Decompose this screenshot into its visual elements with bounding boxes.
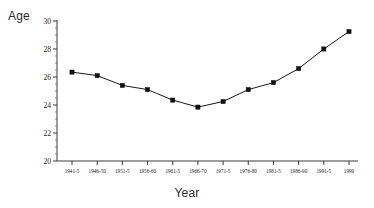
chart-plot-area: 202224262830 1941-51946-501951-51956-601… [0, 0, 374, 208]
x-axis-tick-label: 1991-5 [316, 168, 331, 174]
x-axis-tick-label: 1976-80 [240, 168, 258, 174]
x-axis-tick-label: 1971-5 [216, 168, 231, 174]
data-point-marker [221, 99, 225, 103]
x-axis: 1941-51946-501951-51956-601961-51966-701… [57, 161, 358, 174]
y-axis-tick-label: 24 [44, 101, 52, 110]
y-axis-tick-label: 26 [44, 73, 52, 82]
x-axis-tick-label: 1961-5 [165, 168, 180, 174]
series-line-age [72, 32, 349, 108]
x-axis-tick-label: 1986-90 [290, 168, 308, 174]
chart-figure: Age 202224262830 1941-51946-501951-51956… [0, 0, 374, 208]
data-point-marker [171, 98, 175, 102]
data-point-marker [322, 47, 326, 51]
data-point-marker [246, 88, 250, 92]
x-axis-tick-label: 1999 [344, 168, 355, 174]
y-axis-tick-label: 22 [44, 129, 52, 138]
x-axis-title: Year [0, 186, 374, 200]
data-point-marker [95, 74, 99, 78]
y-axis-tick-label: 20 [44, 157, 52, 166]
x-axis-tick-label: 1951-5 [115, 168, 130, 174]
data-point-marker [347, 29, 351, 33]
x-axis-tick-label: 1946-50 [89, 168, 107, 174]
y-axis: 202224262830 [44, 17, 58, 166]
data-point-marker [297, 67, 301, 71]
y-axis-tick-label: 30 [44, 17, 52, 26]
data-point-marker [196, 105, 200, 109]
x-axis-tick-label: 1941-5 [65, 168, 80, 174]
data-series-age [70, 29, 351, 109]
x-axis-tick-label: 1956-60 [139, 168, 157, 174]
data-point-marker [70, 70, 74, 74]
data-point-marker [120, 83, 124, 87]
data-point-marker [271, 81, 275, 85]
x-axis-tick-label: 1966-70 [189, 168, 207, 174]
x-axis-tick-label: 1981-5 [266, 168, 281, 174]
y-axis-tick-label: 28 [44, 45, 52, 54]
data-point-marker [145, 88, 149, 92]
